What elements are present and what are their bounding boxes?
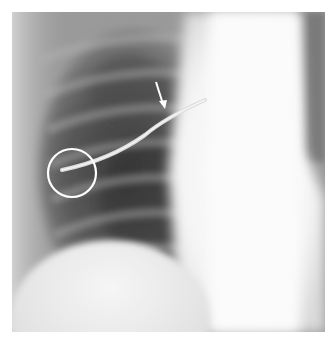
- circle-marker: [48, 149, 96, 197]
- arrow-marker: [156, 82, 167, 109]
- annotation-overlay: [0, 0, 334, 340]
